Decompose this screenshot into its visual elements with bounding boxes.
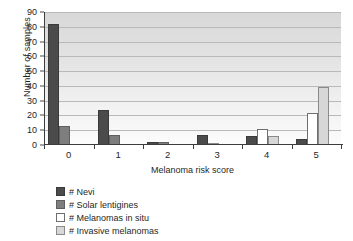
y-axis-tick-90: 90 — [27, 8, 37, 17]
legend-label: # Nevi — [69, 187, 95, 197]
legend-swatch-icon — [56, 187, 65, 196]
x-axis-tickmark-0 — [44, 145, 45, 149]
legend-item: # Invasive melanomas — [56, 224, 276, 237]
legend-label: # Melanomas in situ — [69, 213, 149, 223]
x-axis-tickmark-end — [341, 145, 342, 149]
y-axis-tick-20: 20 — [27, 111, 37, 120]
legend-item: # Solar lentigines — [56, 198, 276, 211]
x-axis-tick-4: 4 — [264, 150, 269, 160]
x-axis-tick-1: 1 — [116, 150, 121, 160]
y-axis-tick-0: 0 — [32, 141, 37, 150]
bar-group-2 — [147, 12, 194, 145]
bar — [307, 113, 318, 146]
y-axis-tick-50: 50 — [27, 67, 37, 76]
bar — [318, 87, 329, 145]
x-axis-tickmark-5 — [292, 145, 293, 149]
x-axis-tickmark-3 — [193, 145, 194, 149]
bar-group-4 — [246, 12, 293, 145]
x-axis-tick-2: 2 — [165, 150, 170, 160]
x-axis-tickmark-2 — [143, 145, 144, 149]
x-axis-tickmark-1 — [94, 145, 95, 149]
bar-groups — [45, 12, 341, 145]
y-axis-tick-40: 40 — [27, 81, 37, 90]
y-axis-tick-60: 60 — [27, 52, 37, 61]
x-axis-tickmark-4 — [242, 145, 243, 149]
x-axis-tick-0: 0 — [66, 150, 71, 160]
bar — [59, 126, 70, 145]
plot-area — [44, 12, 341, 145]
legend-item: # Melanomas in situ — [56, 211, 276, 224]
legend-label: # Invasive melanomas — [69, 226, 159, 236]
legend-item: # Nevi — [56, 185, 276, 198]
bar — [98, 110, 109, 145]
x-axis-tick-5: 5 — [314, 150, 319, 160]
y-axis-tick-30: 30 — [27, 96, 37, 105]
legend-swatch-icon — [56, 213, 65, 222]
x-axis-title: Melanoma risk score — [44, 165, 341, 175]
x-axis-tick-3: 3 — [215, 150, 220, 160]
y-axis-tick-labels: 0102030405060708090 — [14, 7, 40, 145]
bar-group-1 — [98, 12, 145, 145]
chart-legend: # Nevi# Solar lentigines# Melanomas in s… — [56, 185, 276, 237]
bar — [48, 24, 59, 145]
bar — [257, 129, 268, 145]
bar-group-0 — [48, 12, 95, 145]
bar-group-5 — [296, 12, 343, 145]
bar-group-3 — [197, 12, 244, 145]
y-axis-tick-80: 80 — [27, 22, 37, 31]
legend-label: # Solar lentigines — [69, 200, 138, 210]
legend-swatch-icon — [56, 226, 65, 235]
x-axis-line — [44, 144, 343, 145]
y-axis-tick-10: 10 — [27, 126, 37, 135]
y-axis-tick-70: 70 — [27, 37, 37, 46]
bar-chart-figure: Number of samples 0102030405060708090 01… — [0, 0, 353, 241]
legend-swatch-icon — [56, 200, 65, 209]
